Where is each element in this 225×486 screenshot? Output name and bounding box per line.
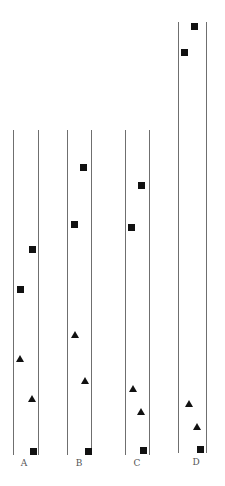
square-marker	[138, 182, 145, 189]
lane-label: D	[192, 458, 199, 467]
triangle-marker	[81, 377, 89, 384]
square-marker	[30, 448, 37, 455]
triangle-marker	[71, 331, 79, 338]
lane-right-line	[149, 130, 150, 455]
square-marker	[128, 224, 135, 231]
square-marker	[140, 447, 147, 454]
triangle-marker	[28, 395, 36, 402]
square-marker	[85, 448, 92, 455]
square-marker	[197, 446, 204, 453]
lane-label: A	[21, 459, 28, 468]
triangle-marker	[193, 423, 201, 430]
square-marker	[191, 23, 198, 30]
lane-right-line	[206, 22, 207, 453]
square-marker	[80, 164, 87, 171]
lane-label: B	[76, 459, 83, 468]
lane-left-line	[178, 22, 179, 453]
lane-diagram: ABCD	[0, 0, 225, 486]
lane-right-line	[38, 130, 39, 455]
triangle-marker	[16, 355, 24, 362]
lane-right-line	[91, 130, 92, 455]
square-marker	[181, 49, 188, 56]
triangle-marker	[129, 385, 137, 392]
triangle-marker	[185, 400, 193, 407]
square-marker	[29, 246, 36, 253]
lane-left-line	[125, 130, 126, 455]
triangle-marker	[137, 408, 145, 415]
lane-label: C	[134, 459, 141, 468]
lane-left-line	[13, 130, 14, 455]
square-marker	[17, 286, 24, 293]
square-marker	[71, 221, 78, 228]
lane-left-line	[67, 130, 68, 455]
